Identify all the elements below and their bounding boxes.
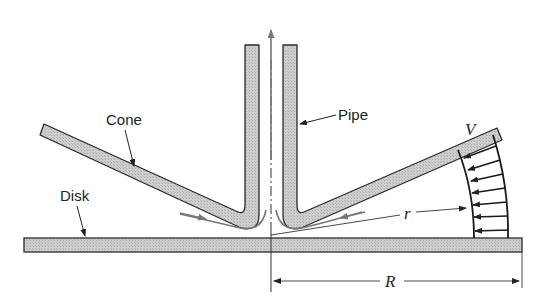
label-V: V [465, 120, 478, 139]
pipe-callout: Pipe [300, 106, 368, 124]
label-cone: Cone [106, 111, 142, 128]
label-pipe: Pipe [338, 106, 368, 123]
cone-disk-diagram: r V R Cone Pipe Disk [0, 0, 542, 304]
label-r: r [404, 204, 411, 223]
label-R: R [384, 272, 396, 291]
disk [24, 238, 522, 252]
disk-callout: Disk [60, 187, 90, 236]
label-disk: Disk [60, 187, 90, 204]
flow-arrow-right-inlet [340, 212, 365, 218]
flow-arrow-left-inlet [180, 213, 206, 219]
radius-dimension-R: R [274, 252, 522, 291]
